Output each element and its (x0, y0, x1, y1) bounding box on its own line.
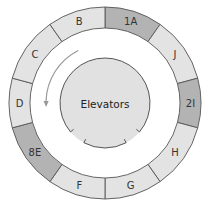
room-label: 2I (186, 98, 195, 109)
elevator-core: Elevators (60, 58, 150, 148)
elevators-label: Elevators (81, 98, 130, 110)
room-label: F (76, 180, 82, 191)
room-label: B (76, 16, 83, 27)
room-label: 1A (124, 16, 137, 27)
room-label: C (31, 49, 38, 60)
room-label: G (127, 180, 135, 191)
room-label: J (173, 49, 177, 60)
ring-floor-diagram: 1AJ2IHGF8EDCB Elevators (0, 0, 210, 206)
room-label: D (16, 98, 24, 109)
room-label: 8E (29, 147, 42, 158)
room-label: H (171, 147, 179, 158)
